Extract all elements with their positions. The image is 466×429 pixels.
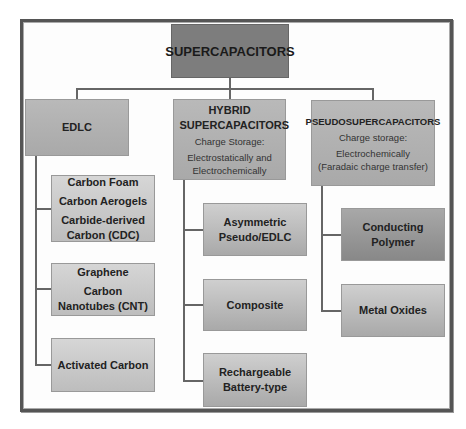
category-subtitle: Charge storage: bbox=[339, 131, 407, 144]
connector-hybrid-branch-2 bbox=[183, 304, 203, 306]
connector-pseudo-down bbox=[372, 88, 374, 100]
leaf-composite: Composite bbox=[203, 279, 307, 331]
leaf-graphene-cnt: Graphene Carbon Nanotubes (CNT) bbox=[51, 263, 155, 316]
leaf-conducting-polymer: Conducting Polymer bbox=[341, 208, 445, 261]
category-pseudosupercapacitors: PSEUDOSUPERCAPACITORS Charge storage: El… bbox=[311, 100, 435, 186]
connector-hybrid-branch-1 bbox=[183, 229, 203, 231]
leaf-line: Carbon Nanotubes (CNT) bbox=[55, 284, 151, 314]
category-title: EDLC bbox=[62, 120, 92, 135]
category-edlc: EDLC bbox=[25, 99, 129, 156]
root-node-supercapacitors: SUPERCAPACITORS bbox=[171, 24, 289, 78]
leaf-line: Composite bbox=[227, 298, 284, 313]
category-title: PSEUDOSUPERCAPACITORS bbox=[306, 114, 441, 129]
leaf-line: Asymmetric Pseudo/EDLC bbox=[215, 215, 295, 245]
connector-pseudo-branch-1 bbox=[321, 234, 341, 236]
leaf-line: Graphene bbox=[77, 265, 128, 280]
leaf-line: Carbide-derived Carbon (CDC) bbox=[58, 213, 148, 243]
connector-hybrid-branch-3 bbox=[183, 380, 203, 382]
connector-edlc-branch-1 bbox=[35, 208, 51, 210]
leaf-rechargeable-battery-type: Rechargeable Battery-type bbox=[203, 353, 307, 407]
root-node-label: SUPERCAPACITORS bbox=[165, 44, 295, 59]
leaf-carbon-foam-aerogels-cdc: Carbon Foam Carbon Aerogels Carbide-deri… bbox=[51, 175, 155, 242]
leaf-line: Metal Oxides bbox=[359, 303, 427, 318]
category-hybrid-supercapacitors: HYBRID SUPERCAPACITORS Charge Storage: E… bbox=[173, 99, 286, 180]
leaf-line: Conducting Polymer bbox=[342, 220, 444, 250]
connector-edlc-branch-2 bbox=[35, 288, 51, 290]
leaf-line: Carbon Aerogels bbox=[59, 194, 147, 209]
category-subtitle: Charge Storage: bbox=[195, 135, 265, 148]
connector-edlc-branch-3 bbox=[35, 364, 51, 366]
connector-hybrid-down bbox=[229, 88, 231, 99]
leaf-activated-carbon: Activated Carbon bbox=[51, 338, 155, 392]
leaf-line: Activated Carbon bbox=[57, 358, 148, 373]
leaf-line: Rechargeable Battery-type bbox=[215, 365, 295, 395]
category-detail: Electrochemically (Faradaic charge trans… bbox=[315, 147, 431, 173]
category-detail: Electrostatically and Electrochemically bbox=[180, 151, 280, 177]
category-title: HYBRID SUPERCAPACITORS bbox=[180, 103, 280, 133]
connector-horizontal bbox=[76, 88, 374, 90]
connector-edlc-down bbox=[76, 88, 78, 99]
leaf-metal-oxides: Metal Oxides bbox=[341, 284, 445, 337]
leaf-asymmetric-pseudo-edlc: Asymmetric Pseudo/EDLC bbox=[203, 203, 307, 256]
connector-edlc-trunk bbox=[35, 156, 37, 365]
connector-hybrid-trunk bbox=[183, 180, 185, 381]
connector-pseudo-trunk bbox=[321, 186, 323, 311]
connector-pseudo-branch-2 bbox=[321, 310, 341, 312]
leaf-line: Carbon Foam bbox=[68, 175, 139, 190]
